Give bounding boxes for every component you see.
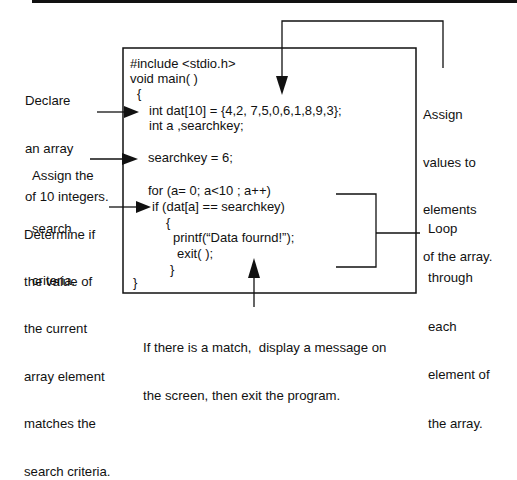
code-line: searchkey = 6; bbox=[148, 150, 233, 166]
top-bar bbox=[32, 0, 517, 3]
determine-arrow bbox=[109, 201, 151, 213]
loop-bracket bbox=[336, 194, 420, 267]
code-line: #include <stdio.h> bbox=[130, 56, 236, 72]
arrow-down-icon bbox=[276, 76, 288, 95]
match-message-arrow bbox=[248, 258, 260, 307]
code-line: { bbox=[166, 215, 170, 231]
arrow-right-icon bbox=[124, 106, 139, 118]
arrow-right-icon bbox=[136, 201, 151, 213]
code-line: } bbox=[133, 275, 137, 291]
callout-match-message: If there is a match, display a message o… bbox=[143, 308, 386, 420]
code-line: void main( ) bbox=[130, 71, 198, 87]
code-line: int dat[10] = {4,2, 7,5,0,6,1,8,9,3}; bbox=[149, 103, 342, 119]
code-line: exit( ); bbox=[177, 246, 213, 262]
code-line: printf(“Data fournd!”); bbox=[173, 230, 294, 246]
code-line: } bbox=[170, 262, 174, 278]
arrow-right-icon bbox=[122, 153, 138, 165]
arrow-up-icon bbox=[248, 258, 260, 278]
callout-determine-match: Determine if the value of the current ar… bbox=[24, 195, 110, 480]
code-line: { bbox=[137, 86, 141, 102]
callout-loop: Loop through each element of the array. bbox=[428, 189, 490, 448]
assign-values-connector bbox=[276, 21, 443, 95]
code-line: if (dat[a] == searchkey) bbox=[152, 199, 285, 215]
code-line: int a ,searchkey; bbox=[149, 118, 244, 134]
code-line: for (a= 0; a<10 ; a++) bbox=[148, 183, 271, 199]
